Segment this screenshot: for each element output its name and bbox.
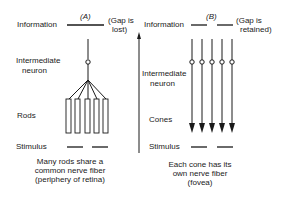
panel-a-rods [66,99,108,133]
diagram-graphics [0,0,282,199]
arrow-up-icon [137,32,141,39]
panel-a-intermediate-neuron [86,60,90,64]
panel-a-convergence-lines [69,80,106,99]
panel-b-cones [189,123,235,133]
panel-b-intermediate-neurons [190,60,234,64]
panel-b-fibers [192,39,232,125]
